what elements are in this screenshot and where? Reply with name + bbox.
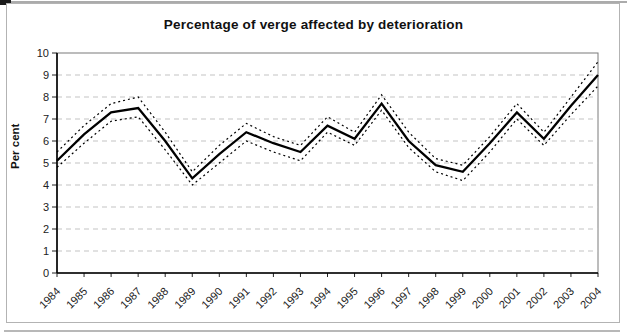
x-tick-label: 1994 <box>307 285 333 311</box>
x-tick-label: 1989 <box>172 285 198 311</box>
x-tick-label: 1988 <box>145 285 171 311</box>
x-tick-label: 1991 <box>226 285 252 311</box>
x-tick-label: 1987 <box>118 285 144 311</box>
chart-page: Percentage of verge affected by deterior… <box>0 0 627 336</box>
x-tick-label: 2004 <box>578 285 604 311</box>
x-tick-label: 1993 <box>280 285 306 311</box>
y-tick-label: 2 <box>43 223 49 235</box>
y-tick-label: 9 <box>43 69 49 81</box>
x-tick-label: 1997 <box>388 285 414 311</box>
y-tick-label: 3 <box>43 201 49 213</box>
y-tick-label: 10 <box>37 47 49 59</box>
y-tick-label: 1 <box>43 245 49 257</box>
y-tick-label: 0 <box>43 267 49 279</box>
x-tick-label: 2001 <box>496 285 522 311</box>
x-tick-label: 2000 <box>469 285 495 311</box>
x-tick-label: 2002 <box>524 285 550 311</box>
x-tick-label: 1990 <box>199 285 225 311</box>
y-tick-label: 8 <box>43 91 49 103</box>
x-tick-label: 2003 <box>551 285 577 311</box>
x-tick-label: 1995 <box>334 285 360 311</box>
y-tick-label: 5 <box>43 157 49 169</box>
x-tick-label: 1985 <box>64 285 90 311</box>
x-tick-label: 1999 <box>442 285 468 311</box>
y-tick-label: 4 <box>43 179 49 191</box>
x-tick-label: 1984 <box>37 285 63 311</box>
y-tick-label: 7 <box>43 113 49 125</box>
x-tick-label: 1996 <box>361 285 387 311</box>
line-chart: 0123456789101984198519861987198819891990… <box>0 0 627 336</box>
x-tick-label: 1986 <box>91 285 117 311</box>
x-tick-label: 1992 <box>253 285 279 311</box>
y-tick-label: 6 <box>43 135 49 147</box>
x-tick-label: 1998 <box>415 285 441 311</box>
